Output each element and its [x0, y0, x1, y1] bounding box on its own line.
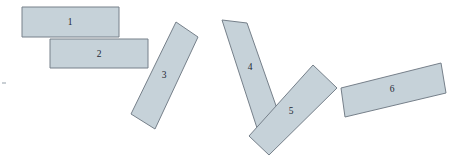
block-3-label: 3	[162, 70, 167, 80]
scan-artifact-speck	[2, 82, 6, 84]
block-4-label: 4	[248, 62, 253, 72]
block-6-label: 6	[390, 84, 395, 94]
block-1-label: 1	[68, 17, 73, 27]
figure-canvas: 1 2 3 4 5 6	[0, 0, 457, 168]
block-group-2[interactable]: 2	[50, 39, 148, 68]
block-5-label: 5	[289, 106, 294, 116]
block-group-6[interactable]: 6	[341, 63, 446, 117]
block-2-label: 2	[97, 49, 102, 59]
block-group-3[interactable]: 3	[131, 22, 198, 129]
block-group-1[interactable]: 1	[22, 7, 119, 37]
blocks-svg: 1 2 3 4 5 6	[0, 0, 457, 168]
